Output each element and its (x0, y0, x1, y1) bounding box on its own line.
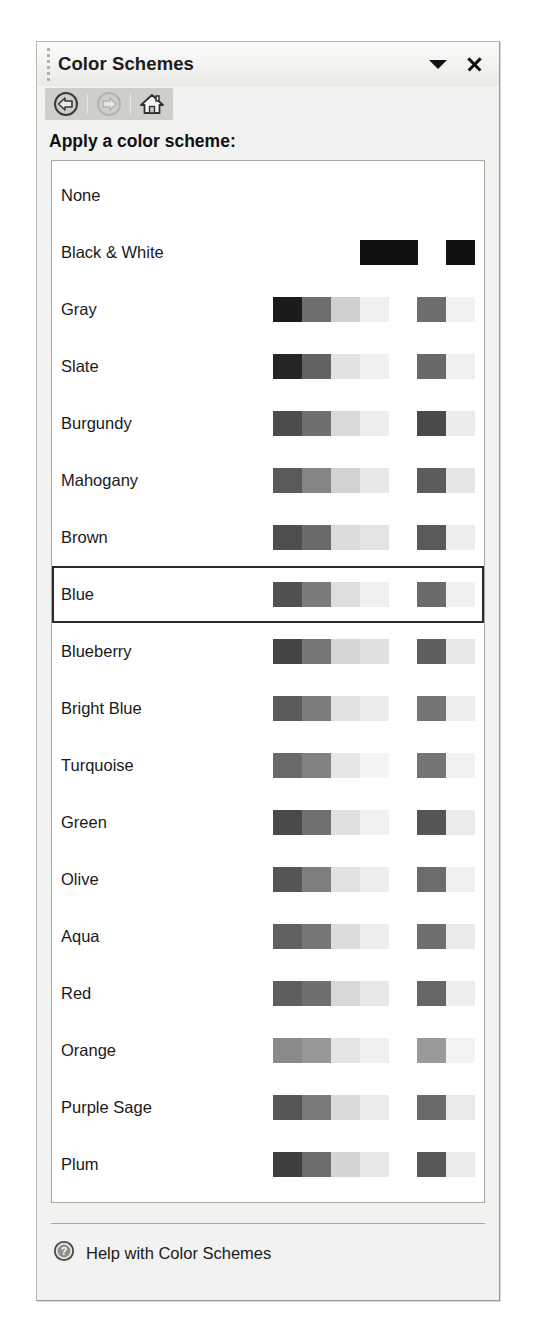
apply-color-scheme-heading: Apply a color scheme: (37, 122, 499, 160)
color-scheme-swatches (273, 525, 475, 550)
list-item[interactable]: Aqua (52, 908, 484, 965)
list-item[interactable]: Blueberry (52, 623, 484, 680)
task-pane-titlebar: Color Schemes (37, 42, 499, 86)
swatch-cluster-primary (273, 810, 389, 835)
color-scheme-name: Mahogany (61, 471, 138, 490)
color-swatch (446, 354, 475, 379)
swatch-cluster-gap (389, 1107, 417, 1108)
color-swatch (302, 924, 331, 949)
swatch-cluster-gap (389, 480, 417, 481)
swatch-cluster-accent (417, 582, 475, 607)
color-swatch (360, 639, 389, 664)
list-item[interactable]: Plum (52, 1136, 484, 1193)
swatch-cluster-primary (273, 525, 389, 550)
color-scheme-swatches (273, 1038, 475, 1063)
color-swatch (417, 468, 446, 493)
list-item[interactable]: Brown (52, 509, 484, 566)
swatch-cluster-primary (273, 1038, 389, 1063)
color-swatch (302, 1038, 331, 1063)
color-swatch (302, 1152, 331, 1177)
close-icon[interactable] (463, 53, 485, 75)
color-swatch (302, 1095, 331, 1120)
color-scheme-swatches (273, 810, 475, 835)
toolbar-separator (87, 94, 88, 114)
color-scheme-swatches (360, 240, 475, 265)
color-swatch (331, 582, 360, 607)
color-scheme-name: Brown (61, 528, 108, 547)
list-item[interactable]: Turquoise (52, 737, 484, 794)
color-swatch (302, 696, 331, 721)
color-swatch (446, 468, 475, 493)
back-arrow-icon[interactable] (51, 90, 81, 118)
color-swatch (417, 1152, 446, 1177)
color-scheme-swatches (273, 297, 475, 322)
color-swatch (446, 297, 475, 322)
list-item[interactable]: Olive (52, 851, 484, 908)
color-swatch (302, 867, 331, 892)
swatch-cluster-gap (389, 1164, 417, 1165)
swatch-cluster-primary (273, 582, 389, 607)
color-swatch (417, 867, 446, 892)
list-item[interactable]: Green (52, 794, 484, 851)
color-swatch (360, 981, 389, 1006)
color-swatch (273, 411, 302, 436)
color-swatch (446, 639, 475, 664)
help-with-color-schemes-link[interactable]: ? Help with Color Schemes (37, 1224, 499, 1266)
color-swatch (417, 582, 446, 607)
color-scheme-swatches (273, 582, 475, 607)
color-swatch (302, 753, 331, 778)
color-swatch (273, 639, 302, 664)
color-scheme-swatches (273, 354, 475, 379)
color-swatch (417, 411, 446, 436)
swatch-cluster-primary (273, 297, 389, 322)
swatch-cluster-primary (273, 411, 389, 436)
swatch-cluster-primary (273, 924, 389, 949)
color-scheme-name: Green (61, 813, 107, 832)
swatch-cluster-gap (389, 309, 417, 310)
list-item[interactable]: Slate (52, 338, 484, 395)
list-item[interactable]: Red (52, 965, 484, 1022)
help-label: Help with Color Schemes (86, 1244, 271, 1263)
swatch-cluster-accent (417, 981, 475, 1006)
chevron-down-icon[interactable] (427, 53, 449, 75)
drag-gripper-icon[interactable] (41, 47, 55, 81)
color-scheme-name: Slate (61, 357, 99, 376)
swatch-cluster-primary (360, 240, 418, 265)
list-item[interactable]: Purple Sage (52, 1079, 484, 1136)
list-item[interactable]: Blue (52, 566, 484, 623)
list-item[interactable]: Bright Blue (52, 680, 484, 737)
list-item[interactable]: Mahogany (52, 452, 484, 509)
swatch-cluster-primary (273, 468, 389, 493)
color-scheme-swatches (273, 753, 475, 778)
swatch-cluster-gap (389, 993, 417, 994)
color-scheme-name: None (61, 186, 100, 205)
swatch-cluster-gap (389, 936, 417, 937)
list-item[interactable]: None (52, 167, 484, 224)
color-swatch (331, 468, 360, 493)
color-swatch (417, 1038, 446, 1063)
color-swatch (331, 1152, 360, 1177)
color-swatch (360, 867, 389, 892)
color-scheme-name: Blue (61, 585, 94, 604)
forward-arrow-icon[interactable] (94, 90, 124, 118)
home-icon[interactable] (137, 90, 167, 118)
color-swatch (417, 1095, 446, 1120)
color-swatch (417, 354, 446, 379)
color-swatch (302, 639, 331, 664)
list-item[interactable]: Black & White (52, 224, 484, 281)
color-swatch (302, 411, 331, 436)
color-scheme-name: Aqua (61, 927, 100, 946)
color-swatch (331, 924, 360, 949)
color-swatch (273, 867, 302, 892)
color-swatch (360, 1152, 389, 1177)
list-item[interactable]: Gray (52, 281, 484, 338)
color-swatch (360, 696, 389, 721)
swatch-cluster-primary (273, 981, 389, 1006)
color-swatch (417, 297, 446, 322)
list-item[interactable]: Burgundy (52, 395, 484, 452)
task-pane-footer: ? Help with Color Schemes (37, 1203, 499, 1300)
color-swatch (446, 753, 475, 778)
list-item[interactable]: Orange (52, 1022, 484, 1079)
color-scheme-list[interactable]: NoneBlack & WhiteGraySlateBurgundyMahoga… (51, 160, 485, 1203)
color-swatch (417, 753, 446, 778)
